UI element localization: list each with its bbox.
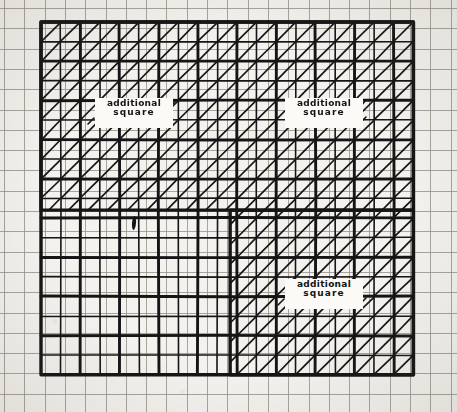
grid-diagram-canvas	[0, 0, 457, 412]
annotation-line-2: square	[97, 108, 171, 117]
figure-root: additional square additional square addi…	[0, 0, 457, 412]
annotation-line-2: square	[287, 289, 361, 298]
annotation-additional-square-upper-left: additional square	[95, 98, 173, 128]
annotation-line-2: square	[287, 108, 361, 117]
annotation-additional-square-upper-right: additional square	[285, 98, 363, 128]
annotation-additional-square-lower-right: additional square	[285, 279, 363, 309]
